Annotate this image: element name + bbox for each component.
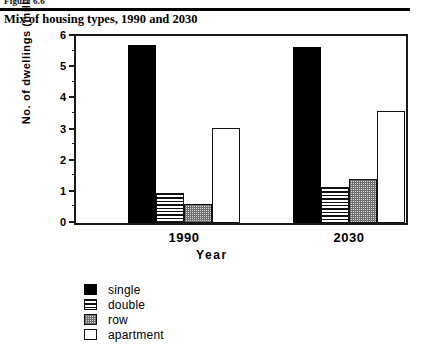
legend-swatch-double <box>84 299 97 310</box>
x-axis-title: Year <box>0 248 424 262</box>
legend-label-row: row <box>108 313 128 327</box>
bar-double-2030 <box>321 187 349 223</box>
bar-row-2030 <box>349 179 377 223</box>
bar-single-2030 <box>293 47 321 223</box>
bar-apartment-2030 <box>377 111 405 223</box>
y-tick-label: 6 <box>60 29 66 41</box>
x-tick <box>349 220 350 224</box>
legend-swatch-apartment <box>84 329 97 340</box>
legend-item-apartment: apartment <box>84 327 164 342</box>
x-tick <box>184 220 185 224</box>
legend-label-apartment: apartment <box>108 328 164 342</box>
legend-item-row: row <box>84 312 164 327</box>
y-tick-label: 2 <box>60 154 66 166</box>
legend-item-single: single <box>84 282 164 297</box>
y-tick-label: 4 <box>60 91 66 103</box>
header-rule <box>0 8 410 11</box>
bar-apartment-1990 <box>212 128 240 223</box>
legend-swatch-row <box>84 314 97 325</box>
legend-swatch-single <box>84 284 97 295</box>
bar-row-1990 <box>184 204 212 223</box>
y-tick-label: 1 <box>60 185 66 197</box>
y-tick-label: 0 <box>60 216 66 228</box>
y-tick-label: 5 <box>60 60 66 72</box>
legend-label-single: single <box>108 283 141 297</box>
bar-double-1990 <box>156 193 184 223</box>
bar-single-1990 <box>128 45 156 223</box>
legend-item-double: double <box>84 297 164 312</box>
x-tick-label-1990: 1990 <box>169 230 200 245</box>
legend-label-double: double <box>108 298 145 312</box>
figure-caption: Mix of housing types, 1990 and 2030 <box>4 12 197 27</box>
legend: singledoublerowapartment <box>84 282 164 342</box>
bars-container <box>76 36 406 223</box>
y-tick-label: 3 <box>60 123 66 135</box>
plot-area <box>74 34 408 225</box>
x-tick-label-2030: 2030 <box>334 230 365 245</box>
y-axis-title: No. of dwellings (millions) <box>20 0 32 138</box>
